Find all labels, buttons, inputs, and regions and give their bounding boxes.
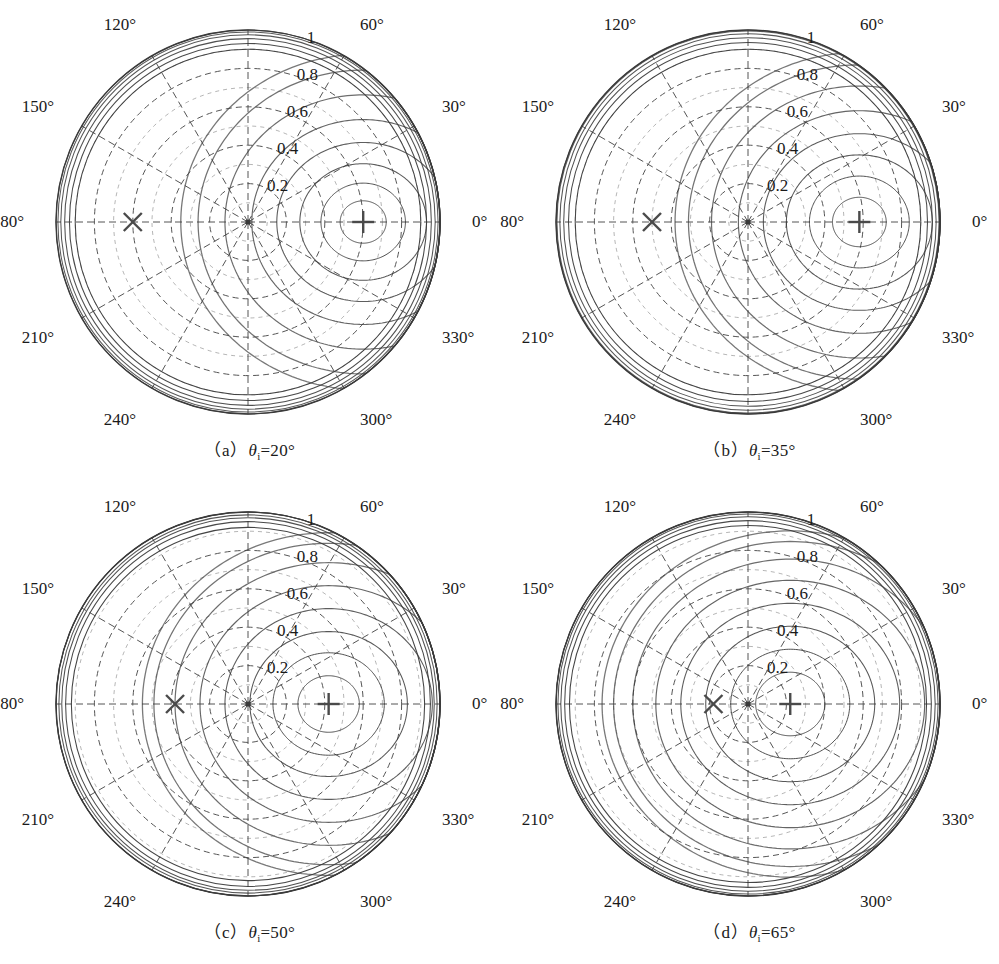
plot-area-c: 0°30°60°90°120°150°180°210°240°270°300°3… <box>0 482 499 922</box>
angular-tick-label: 150° <box>22 97 54 116</box>
origin-point <box>745 701 750 706</box>
origin-point <box>245 219 250 224</box>
angular-tick-label: 150° <box>522 97 554 116</box>
plot-area-b: 0°30°60°90°120°150°180°210°240°270°300°3… <box>500 0 999 440</box>
angular-tick-label: 330° <box>942 810 974 829</box>
angular-tick-label: 30° <box>942 579 966 598</box>
caption-c: （c）θi=50° <box>0 918 499 944</box>
radial-tick-label: 0.6 <box>287 102 308 121</box>
radial-tick-label: 0.2 <box>767 658 788 677</box>
caption-c-value: =50° <box>260 923 295 942</box>
origin-point <box>745 219 750 224</box>
caption-c-prefix: （c） <box>204 923 249 942</box>
caption-a-value: =20° <box>260 441 295 460</box>
plot-area-d: 0°30°60°90°120°150°180°210°240°270°300°3… <box>500 482 999 922</box>
angular-tick-label: 120° <box>104 15 136 34</box>
polar-plot-b: 0°30°60°90°120°150°180°210°240°270°300°3… <box>500 0 999 440</box>
grid-spoke <box>248 222 344 388</box>
angular-tick-label: 120° <box>604 497 636 516</box>
angular-tick-label: 330° <box>442 810 474 829</box>
angular-tick-label: 120° <box>604 15 636 34</box>
angular-tick-label: 60° <box>860 15 884 34</box>
caption-b-symbol: θ <box>749 441 758 460</box>
radial-tick-label: 0.4 <box>777 139 799 158</box>
caption-a-symbol: θ <box>248 441 257 460</box>
radial-tick-label: 0.6 <box>787 102 808 121</box>
grid-spoke <box>248 608 414 704</box>
caption-b: （b）θi=35° <box>500 436 999 462</box>
caption-d-prefix: （d） <box>703 923 749 942</box>
angular-tick-label: 60° <box>860 497 884 516</box>
angular-tick-label: 60° <box>360 15 384 34</box>
radial-tick-label: 0.8 <box>797 65 818 84</box>
radial-tick-label: 1 <box>307 28 316 47</box>
plot-area-a: 0°30°60°90°120°150°180°210°240°270°300°3… <box>0 0 499 440</box>
caption-d-value: =65° <box>761 923 796 942</box>
panel-d: 0°30°60°90°120°150°180°210°240°270°300°3… <box>500 482 999 964</box>
angular-tick-label: 30° <box>942 97 966 116</box>
grid-spoke <box>748 608 914 704</box>
angular-tick-label: 240° <box>104 410 136 429</box>
panel-b: 0°30°60°90°120°150°180°210°240°270°300°3… <box>500 0 999 482</box>
radial-tick-label: 0.8 <box>297 65 318 84</box>
caption-c-symbol: θ <box>248 923 257 942</box>
radial-tick-label: 0.2 <box>267 658 288 677</box>
angular-tick-label: 150° <box>22 579 54 598</box>
specular-direction-marker <box>848 211 870 233</box>
angular-tick-label: 330° <box>442 328 474 347</box>
angular-tick-label: 240° <box>604 410 636 429</box>
angular-tick-label: 0° <box>972 694 987 713</box>
angular-tick-label: 180° <box>500 694 524 713</box>
radial-tick-label: 0.4 <box>777 621 799 640</box>
angular-tick-label: 210° <box>22 328 54 347</box>
caption-b-value: =35° <box>761 441 796 460</box>
specular-direction-marker <box>318 693 340 715</box>
panel-c: 0°30°60°90°120°150°180°210°240°270°300°3… <box>0 482 499 964</box>
angular-tick-label: 300° <box>860 410 892 429</box>
grid-spoke <box>582 126 748 222</box>
radial-tick-label: 1 <box>807 28 816 47</box>
angular-tick-label: 180° <box>0 694 24 713</box>
grid-spoke <box>748 126 914 222</box>
angular-tick-label: 0° <box>472 212 487 231</box>
angular-tick-label: 210° <box>522 810 554 829</box>
angular-tick-label: 0° <box>472 694 487 713</box>
polar-plot-d: 0°30°60°90°120°150°180°210°240°270°300°3… <box>500 482 999 922</box>
radial-tick-label: 0.2 <box>767 176 788 195</box>
angular-tick-label: 240° <box>104 892 136 911</box>
grid-spoke <box>748 704 844 870</box>
angular-tick-label: 210° <box>22 810 54 829</box>
caption-d: （d）θi=65° <box>500 918 999 944</box>
radial-tick-label: 1 <box>307 510 316 529</box>
angular-tick-label: 330° <box>942 328 974 347</box>
angular-tick-label: 30° <box>442 579 466 598</box>
radial-tick-label: 0.2 <box>267 176 288 195</box>
angular-tick-label: 0° <box>972 212 987 231</box>
radial-tick-label: 0.6 <box>287 584 308 603</box>
caption-a: （a）θi=20° <box>0 436 499 462</box>
angular-tick-label: 300° <box>360 410 392 429</box>
angular-tick-label: 300° <box>360 892 392 911</box>
radial-tick-label: 0.4 <box>277 139 299 158</box>
panel-a: 0°30°60°90°120°150°180°210°240°270°300°3… <box>0 0 499 482</box>
angular-tick-label: 210° <box>522 328 554 347</box>
angular-tick-label: 30° <box>442 97 466 116</box>
angular-tick-label: 180° <box>0 212 24 231</box>
figure-polar-contour-grid: 0°30°60°90°120°150°180°210°240°270°300°3… <box>0 0 999 964</box>
radial-tick-label: 0.8 <box>797 547 818 566</box>
caption-b-prefix: （b） <box>703 441 749 460</box>
radial-tick-label: 0.4 <box>277 621 299 640</box>
radial-tick-label: 0.8 <box>297 547 318 566</box>
caption-d-symbol: θ <box>749 923 758 942</box>
grid-spoke <box>248 126 414 222</box>
angular-tick-label: 240° <box>604 892 636 911</box>
angular-tick-label: 150° <box>522 579 554 598</box>
caption-a-prefix: （a） <box>204 441 249 460</box>
radial-tick-label: 0.6 <box>787 584 808 603</box>
grid-spoke <box>582 608 748 704</box>
specular-direction-marker <box>779 693 801 715</box>
specular-direction-marker <box>352 211 374 233</box>
angular-tick-label: 180° <box>500 212 524 231</box>
radial-tick-label: 1 <box>807 510 816 529</box>
grid-spoke <box>82 126 248 222</box>
